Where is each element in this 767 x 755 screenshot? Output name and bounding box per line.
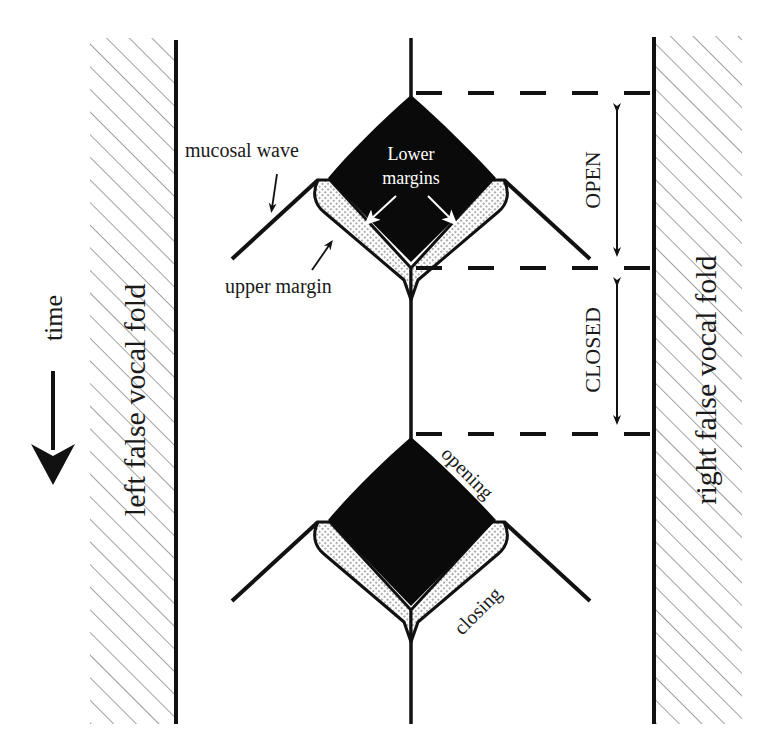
upper-margin-arrow-icon: [312, 244, 330, 270]
closed-label: CLOSED: [580, 307, 605, 393]
mucosal-wave-right: [504, 180, 590, 259]
lower-margins-label-2: margins: [382, 168, 440, 188]
closing-label: closing: [449, 582, 506, 639]
open-label: OPEN: [580, 151, 605, 209]
mucosal-wave-label: mucosal wave: [185, 139, 299, 161]
lower-margins-label-1: Lower: [388, 144, 435, 164]
mucosal-wave-left-2: [232, 522, 318, 601]
time-indicator: time: [31, 295, 75, 485]
lower-glottis: [232, 437, 590, 642]
time-label: time: [39, 295, 68, 341]
phase-arrows: OPEN CLOSED: [580, 108, 617, 420]
right-false-vocal-fold-label: right false vocal fold: [689, 255, 722, 504]
left-false-vocal-fold-label: left false vocal fold: [118, 284, 151, 516]
mucosal-wave-arrow-icon: [272, 174, 277, 208]
vocal-fold-diagram: Lower margins OPEN CLOSED mucosal wave u…: [0, 0, 767, 755]
arrow-down-icon: [31, 444, 75, 485]
mucosal-wave-right-2: [504, 522, 590, 601]
upper-margin-label: upper margin: [225, 275, 332, 298]
